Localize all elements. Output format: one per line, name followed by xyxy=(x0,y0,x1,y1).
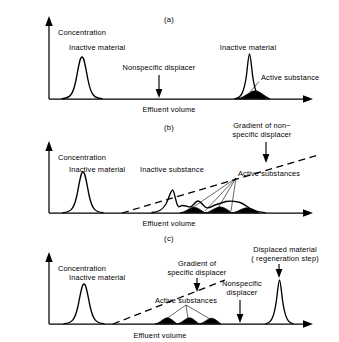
panel-c-gradient-label-line2: specific displacer xyxy=(168,268,227,277)
panel-b-gradient-label-line2: specific displacer xyxy=(233,130,292,139)
panel-a-x-axis xyxy=(49,95,313,102)
panel-c-ylabel: Concentration xyxy=(58,264,106,273)
panel-c-displaced-label-line1: Displaced material xyxy=(253,245,317,254)
panel-c-displaced-peak xyxy=(266,280,293,324)
panel-a-inactive-right-peak xyxy=(235,54,264,99)
panel-a-y-axis xyxy=(45,16,52,99)
panel-b-ylabel: Concentration xyxy=(58,153,106,162)
panel-b-y-axis xyxy=(45,141,52,213)
figure-root: (a) Concentration Effluent volume Inacti… xyxy=(0,0,339,342)
panel-c-inactive-left-peak xyxy=(64,284,104,324)
panel-a-inactive-left-label: Inactive material xyxy=(69,43,126,52)
panel-a: (a) Concentration Effluent volume Inacti… xyxy=(0,0,339,114)
panel-c-active-substances-label: Active substances xyxy=(155,296,217,305)
panel-c-nonspecific-label-line2: displacer xyxy=(227,288,258,297)
panel-b-plot: (b) Concentration Effluent volume Gradie… xyxy=(0,114,339,228)
panel-a-inactive-left-peak xyxy=(62,57,102,99)
panel-a-plot: (a) Concentration Effluent volume Inacti… xyxy=(0,0,339,114)
panel-c-tag: (c) xyxy=(164,234,174,243)
panel-c-inactive-left-label: Inactive material xyxy=(69,273,126,282)
panel-c-active-substances-leaders xyxy=(166,305,210,319)
panel-b-inactive-left-peak xyxy=(63,172,103,213)
panel-b-gradient-arrow xyxy=(263,142,270,163)
panel-c: (c) Concentration Effluent volume Gradie… xyxy=(0,228,339,342)
panel-b: (b) Concentration Effluent volume Gradie… xyxy=(0,114,339,228)
panel-b-active-hump-1 xyxy=(180,207,205,213)
panel-c-displaced-arrow xyxy=(276,264,283,278)
panel-c-plot: (c) Concentration Effluent volume Gradie… xyxy=(0,228,339,342)
panel-c-gradient-label-line1: Gradient of xyxy=(178,259,217,268)
panel-c-nonspecific-label-line1: Nonspecific xyxy=(222,279,262,288)
panel-a-active-substance-label: Active substance xyxy=(261,73,319,82)
panel-a-inactive-right-label: Inactive material xyxy=(220,43,277,52)
panel-a-xlabel: Effluent volume xyxy=(142,105,195,114)
panel-c-y-axis xyxy=(45,252,52,324)
panel-a-ylabel: Concentration xyxy=(58,28,106,37)
panel-c-active-hump-3 xyxy=(199,318,221,324)
panel-a-nonspecific-displacer-arrow xyxy=(156,75,163,98)
panel-b-inactive-substance-label: Inactive substance xyxy=(140,165,204,174)
panel-c-xlabel: Effluent volume xyxy=(133,331,186,340)
panel-b-xlabel: Effluent volume xyxy=(142,219,195,228)
panel-c-displaced-label-line2: ( regeneration step) xyxy=(251,254,319,263)
panel-c-nonspecific-arrow xyxy=(237,300,244,323)
panel-b-active-substances-label: Active substances xyxy=(238,169,300,178)
panel-b-gradient-label-line1: Gradient of non− xyxy=(233,121,291,130)
panel-b-tag: (b) xyxy=(164,123,174,132)
panel-b-inactive-left-label: Inactive material xyxy=(69,165,126,174)
panel-a-tag: (a) xyxy=(164,15,174,24)
panel-a-nonspecific-displacer-label: Nonspecific displacer xyxy=(123,63,196,72)
panel-b-active-hump-3 xyxy=(232,208,259,213)
